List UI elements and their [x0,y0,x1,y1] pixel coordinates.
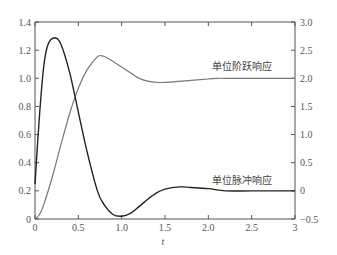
left-y-tick-label: 0.4 [19,157,32,168]
x-tick-label: 0.5 [72,222,85,233]
right-y-tick-label: 3.0 [300,17,313,28]
x-tick-label: 1.5 [159,222,172,233]
left-y-tick-label: 0 [26,214,31,225]
right-y-tick-label: 2.5 [300,45,313,56]
impulse-response-label: 单位脉冲响应 [212,174,272,186]
x-tick-label: 3 [293,222,298,233]
right-y-tick-label: −0.5 [300,214,318,225]
step-response-line [35,56,295,219]
left-y-axis-ticks: 00.20.40.60.81.01.21.4 [19,17,40,225]
x-tick-label: 2.5 [245,222,258,233]
x-axis-title: t [162,236,165,247]
x-tick-label: 2.0 [202,222,215,233]
right-y-tick-label: 0 [300,185,305,196]
dual-axis-response-chart: 00.51.01.52.02.53 00.20.40.60.81.01.21.4… [0,0,337,255]
x-tick-label: 1.0 [115,222,128,233]
left-y-tick-label: 0.2 [19,185,32,196]
x-axis-ticks: 00.51.01.52.02.53 [33,22,298,233]
left-y-tick-label: 1.2 [19,45,32,56]
right-y-tick-label: 1.0 [300,129,313,140]
left-y-tick-label: 0.6 [19,129,32,140]
x-tick-label: 0 [33,222,38,233]
right-y-tick-label: 2.0 [300,73,313,84]
left-y-tick-label: 0.8 [19,101,32,112]
right-y-tick-label: 0.5 [300,157,313,168]
left-y-tick-label: 1.4 [19,17,32,28]
right-y-tick-label: 1.5 [300,101,313,112]
step-response-label: 单位阶跃响应 [212,60,272,72]
left-y-tick-label: 1.0 [19,73,32,84]
